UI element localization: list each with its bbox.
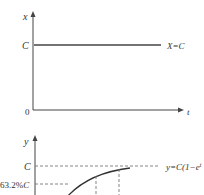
top-t-axis-label: t bbox=[187, 107, 190, 117]
curve-equation-label: y=C(1−et bbox=[165, 162, 202, 172]
diagram-canvas: x C X=C 0 t y C 63.2%C y=C(1−et bbox=[0, 0, 204, 195]
top-plot: x C X=C 0 t bbox=[22, 11, 190, 117]
top-level-label: C bbox=[22, 40, 29, 51]
bottom-level-label: C bbox=[24, 161, 31, 172]
growth-curve bbox=[66, 168, 130, 195]
bottom-y-axis-label: y bbox=[23, 136, 29, 147]
bottom-plot: y C 63.2%C y=C(1−et bbox=[0, 136, 202, 195]
percent-label: 63.2%C bbox=[0, 180, 30, 190]
origin-label: 0 bbox=[25, 107, 30, 117]
constant-line-label: X=C bbox=[166, 41, 186, 51]
top-y-axis-label: x bbox=[22, 11, 28, 22]
